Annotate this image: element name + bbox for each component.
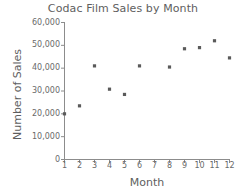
y-axis-tick-label-text: 20,000 [18,109,60,118]
scatter-chart: Codac Film Sales by Month Number of Sale… [0,0,246,196]
data-point [78,104,81,107]
x-axis-tick-label: 12 [221,161,239,170]
data-point [108,88,111,91]
axis-lines [64,22,230,160]
data-point-group [63,39,231,115]
y-axis-tick-label-text: 0 [18,155,60,164]
y-axis-tick-label-text: 60,000 [18,18,60,27]
data-point [228,56,231,59]
y-axis-tick-label-text: 30,000 [18,86,60,95]
y-axis-ticks [61,23,65,160]
data-point [183,47,186,50]
data-point [213,39,216,42]
data-point [123,93,126,96]
y-axis-tick-label-text: 40,000 [18,63,60,72]
data-point [93,64,96,67]
data-point [63,112,66,115]
data-point [198,46,201,49]
data-point [138,64,141,67]
data-point [168,65,171,68]
y-axis-tick-label-text: 10,000 [18,132,60,141]
y-axis-tick-label-text: 50,000 [18,40,60,49]
